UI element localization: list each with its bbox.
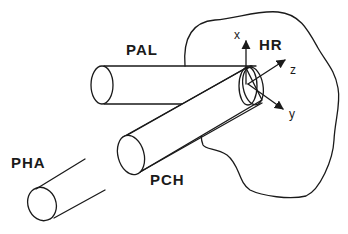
axis-label-x: x — [234, 28, 240, 42]
axis-label-y: y — [289, 107, 295, 121]
label-pha: PHA — [11, 154, 46, 171]
axis-label-z: z — [290, 63, 296, 77]
label-pal: PAL — [126, 41, 158, 58]
label-hr: HR — [259, 36, 283, 53]
label-pch: PCH — [150, 171, 185, 188]
diagram-canvas: PAL PCH PHA HR x z y — [0, 0, 348, 234]
